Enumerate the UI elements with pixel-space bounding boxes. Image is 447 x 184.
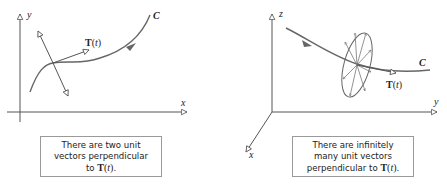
tangent-label: T(t)	[85, 37, 101, 49]
x-axis-3d	[246, 112, 272, 152]
normal-vector-up-arrow	[38, 31, 53, 63]
tangent-vector-arrow-3d	[357, 65, 396, 73]
left-caption-line2: vectors perpendicular	[43, 151, 159, 162]
left-caption-line3: to T(t).	[43, 162, 159, 174]
left-panel: y x C T(t)	[7, 9, 187, 122]
normal-vectors-fan	[343, 33, 371, 96]
right-caption-line3: perpendicular to T(t).	[295, 162, 411, 174]
tangent-label-3d: T(t)	[386, 79, 402, 91]
y-axis-3d-label: y	[433, 96, 439, 107]
right-caption-box: There are infinitely many unit vectors p…	[292, 136, 414, 177]
z-axis-label: z	[278, 8, 283, 19]
right-caption-line2: many unit vectors	[295, 151, 411, 162]
normal-vector-down-arrow	[53, 63, 68, 96]
left-caption-line1: There are two unit	[43, 140, 159, 151]
left-caption-box: There are two unit vectors perpendicular…	[40, 136, 162, 177]
right-caption-line1: There are infinitely	[295, 140, 411, 151]
y-axis-label: y	[26, 9, 32, 20]
curve-label-3d: C	[419, 57, 426, 68]
x-axis-3d-label: x	[248, 149, 254, 160]
curve-label: C	[153, 10, 160, 21]
x-axis-label: x	[180, 97, 186, 108]
